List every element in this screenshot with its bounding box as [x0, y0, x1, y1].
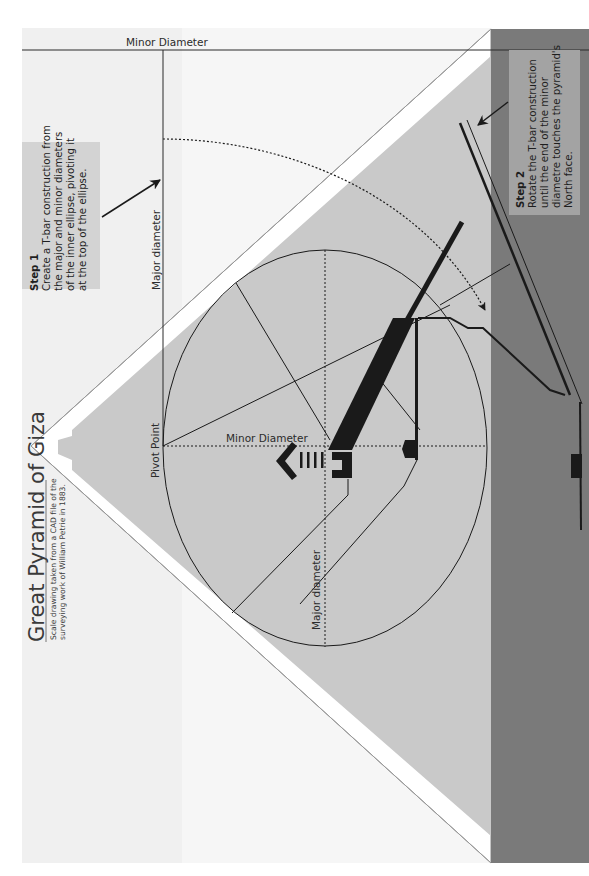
diagram-title: Great Pyramid of Giza — [25, 411, 49, 642]
step2-heading: Step 2 — [515, 171, 526, 208]
pivot-point-label: Pivot Point — [149, 423, 161, 478]
relieving-bar-2 — [307, 452, 310, 468]
step1-heading: Step 1 — [29, 254, 40, 291]
ellipse-major-label: Major diameter — [310, 549, 322, 630]
tbar-major-label: Major diameter — [150, 209, 162, 290]
step2-line-4: North face. — [563, 151, 574, 208]
subtitle-line-2: surveying work of William Petrie in 1883… — [58, 484, 67, 640]
step1-line-1: Create a T-bar construction from — [41, 125, 52, 291]
passage-vertical — [415, 318, 418, 460]
subtitle-line-1: Scale drawing taken from a CAD file of t… — [49, 478, 58, 640]
diagram-canvas: Minor Diameter Major diameter Pivot Poin… — [0, 0, 589, 876]
step1-line-2: the major and minor diameters — [53, 132, 64, 291]
tbar-minor-label: Minor Diameter — [126, 36, 208, 48]
step2-line-3: diametre touches the pyramid's — [551, 45, 562, 208]
pyramid-diagram: Minor Diameter Major diameter Pivot Poin… — [0, 0, 589, 876]
ellipse-minor-label: Minor Diameter — [226, 432, 308, 444]
step1-line-4: at the top of the ellipse. — [77, 169, 88, 291]
relieving-bar-4 — [321, 452, 324, 468]
subterranean-chamber — [571, 454, 582, 478]
step2-line-2: until the end of the minor — [539, 76, 550, 208]
relieving-bar-3 — [314, 452, 317, 468]
step1-line-3: of the inner ellipse, pivoting it — [65, 138, 76, 291]
step2-line-1: Rotate the T-bar construction — [527, 59, 538, 208]
kings-chamber — [402, 440, 416, 458]
relieving-bar-1 — [300, 452, 303, 468]
